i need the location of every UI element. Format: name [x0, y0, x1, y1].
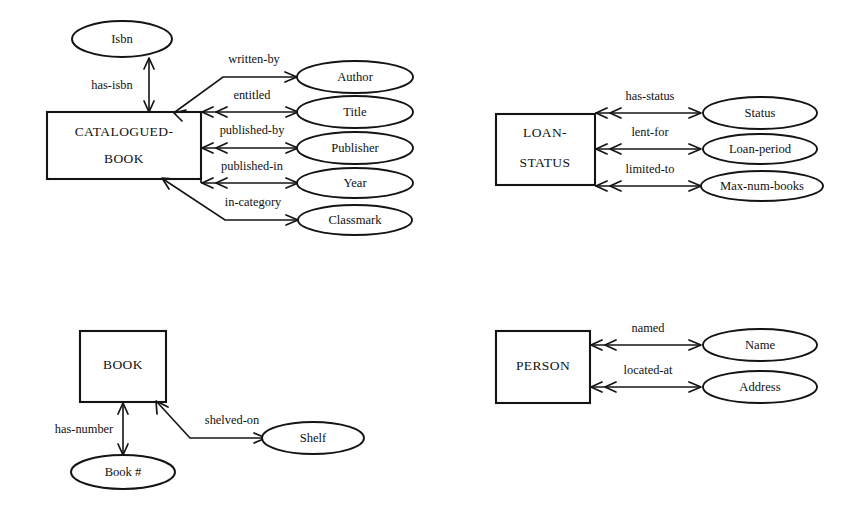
attribute-year-label: Year [343, 176, 367, 190]
attribute-author-label: Author [337, 70, 373, 84]
attribute-status-label: Status [745, 106, 776, 120]
entity-catalogued-book-label-line2: BOOK [104, 151, 144, 166]
entity-loan-status-label-line2: STATUS [520, 155, 571, 170]
attribute-book-number-label: Book # [105, 465, 142, 479]
attribute-max-num-books-label: Max-num-books [720, 179, 804, 193]
group-person: PERSON named Name located-at Address [496, 321, 817, 403]
relationship-named-label: named [631, 321, 665, 335]
group-book: BOOK has-number Book # shelved-on Shelf [55, 331, 364, 489]
attribute-address-label: Address [739, 380, 780, 394]
relationship-located-at-label: located-at [624, 363, 673, 377]
relationship-lent-for-label: lent-for [631, 125, 669, 139]
relationship-has-isbn-label: has-isbn [91, 78, 132, 92]
diagram-canvas: Isbn has-isbn CATALOGUED- BOOK written-b… [0, 0, 861, 526]
attribute-loan-period-label: Loan-period [729, 142, 792, 156]
group-catalogued-book: Isbn has-isbn CATALOGUED- BOOK written-b… [47, 21, 413, 235]
attribute-publisher-label: Publisher [331, 141, 379, 155]
relationship-in-category-label: in-category [225, 195, 282, 209]
attribute-shelf-label: Shelf [300, 431, 327, 445]
entity-loan-status-label-line1: LOAN- [523, 125, 567, 140]
relationship-written-by-label: written-by [228, 52, 280, 66]
er-diagram: Isbn has-isbn CATALOGUED- BOOK written-b… [0, 0, 861, 526]
relationship-shelved-on-label: shelved-on [205, 413, 259, 427]
relationship-published-by-label: published-by [220, 123, 286, 137]
relationship-has-status-label: has-status [626, 89, 675, 103]
attribute-isbn-label: Isbn [111, 32, 133, 46]
entity-book-label: BOOK [103, 357, 143, 372]
entity-catalogued-book[interactable] [47, 112, 201, 179]
relationship-has-number-label: has-number [55, 422, 114, 436]
relationship-published-in-label: published-in [221, 159, 283, 173]
entity-catalogued-book-label-line1: CATALOGUED- [75, 124, 174, 139]
attribute-name-label: Name [745, 338, 775, 352]
group-loan-status: LOAN- STATUS has-status Status lent-for … [496, 89, 823, 201]
relationship-limited-to-label: limited-to [626, 162, 675, 176]
attribute-title-label: Title [343, 105, 367, 119]
attribute-classmark-label: Classmark [328, 213, 382, 227]
relationship-entitled-label: entitled [233, 88, 271, 102]
entity-person-label: PERSON [516, 358, 570, 373]
